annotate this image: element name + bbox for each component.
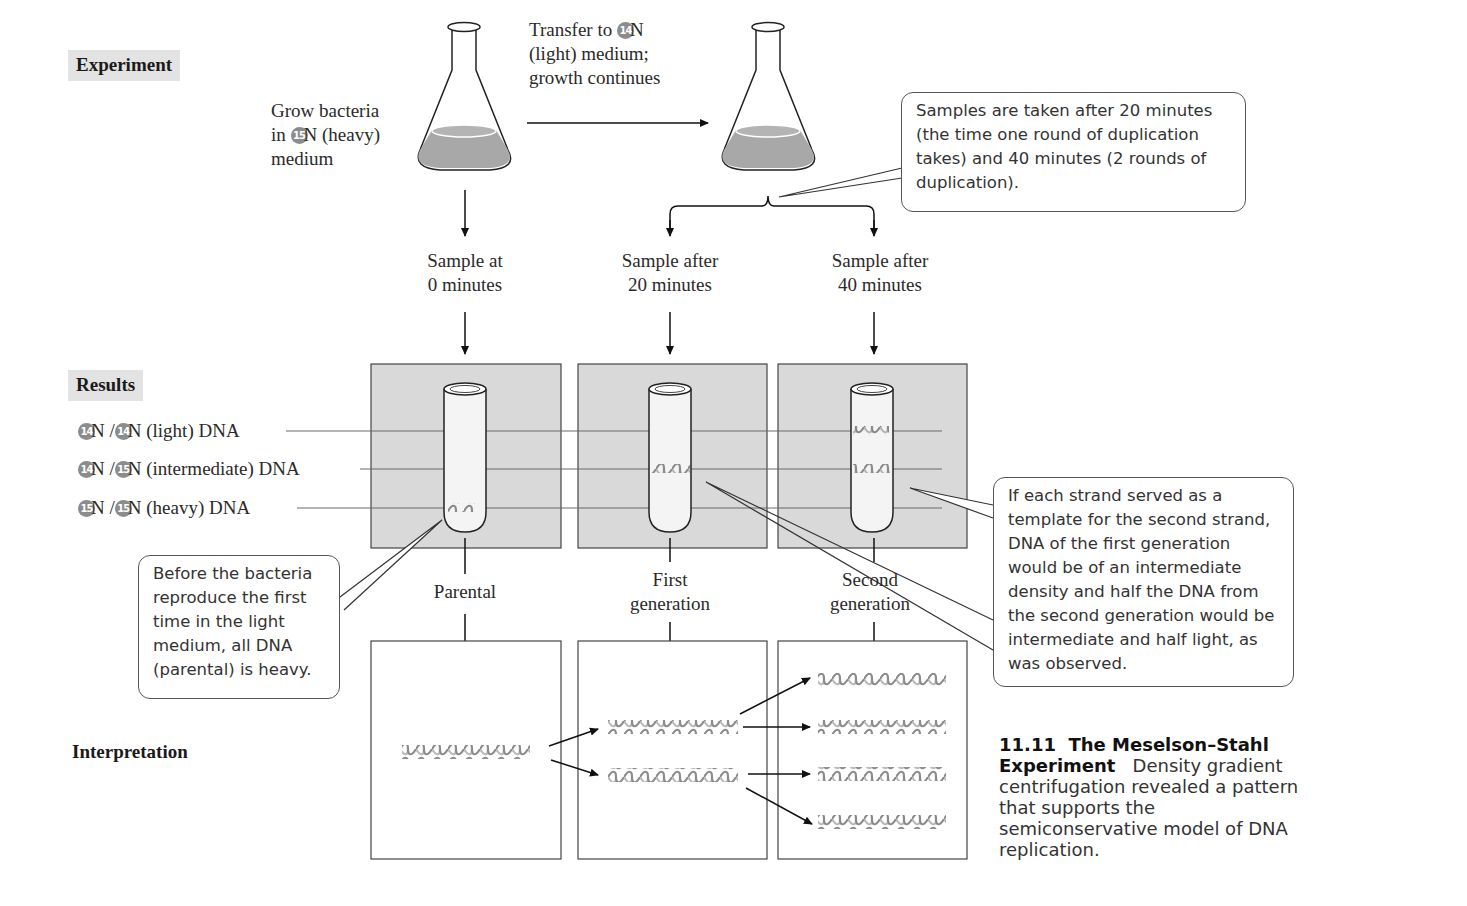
dna-helix-parental [402,745,530,759]
samples-callout: Samples are taken after 20 minutes (the … [901,92,1246,212]
flask-heavy-icon [418,23,510,171]
generation-label-first: Firstgeneration [600,568,740,616]
figure-caption: 11.11 The Meselson–Stahl Experiment Dens… [999,734,1319,860]
interp-panel-first-gen [578,641,767,859]
dna-helix-gen2-a [818,673,946,687]
dna-helix-gen2-c [818,767,946,781]
caption-number: 11.11 [999,734,1056,755]
band-label-intermediate: 14N /15N (intermediate) DNA [78,457,300,481]
flask-light-icon [722,23,814,171]
tube-parental-icon [444,383,486,532]
band-label-heavy: 15N /15N (heavy) DNA [78,496,250,520]
sample-label-40: Sample after40 minutes [805,249,955,297]
template-callout: If each strand served as a template for … [993,477,1294,687]
band-label-light: 14N /14N (light) DNA [78,419,240,443]
sample-label-0: Sample at0 minutes [395,249,535,297]
dna-helix-gen1-b [608,768,738,782]
section-tag-interpretation: Interpretation [72,741,188,763]
generation-label-second: Secondgeneration [800,568,940,616]
section-tag-results: Results [68,370,143,401]
transfer-label: Transfer to 14N (light) medium; growth c… [529,18,660,90]
tube-first-gen-icon [649,383,691,532]
generation-label-parental: Parental [400,580,530,604]
grow-bacteria-label: Grow bacteria in 15N (heavy) medium [271,99,380,171]
dna-helix-gen2-d [818,815,946,829]
section-tag-experiment: Experiment [68,50,180,81]
parental-callout: Before the bacteria reproduce the first … [138,555,340,699]
dna-helix-gen2-b [818,720,946,734]
sample-label-20: Sample after20 minutes [595,249,745,297]
tube-second-gen-icon [851,383,893,532]
dna-helix-gen1-a [608,720,738,734]
